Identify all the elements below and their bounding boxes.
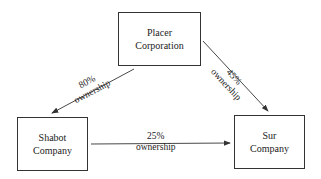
label-shabot-sur: 25% ownership bbox=[136, 131, 176, 153]
sur-name-line1: Sur bbox=[263, 129, 277, 142]
shabot-company-box: Shabot Company bbox=[17, 117, 88, 171]
placer-name-line1: Placer bbox=[147, 26, 172, 39]
sur-name-line2: Company bbox=[250, 142, 289, 155]
placer-name-line2: Corporation bbox=[135, 39, 183, 52]
ownership-text: ownership bbox=[136, 142, 176, 153]
pct-25: 25% bbox=[136, 131, 176, 142]
placer-corporation-box: Placer Corporation bbox=[118, 12, 201, 66]
shabot-name-line1: Shabot bbox=[39, 131, 67, 144]
shabot-name-line2: Company bbox=[33, 144, 72, 157]
sur-company-box: Sur Company bbox=[234, 115, 305, 169]
